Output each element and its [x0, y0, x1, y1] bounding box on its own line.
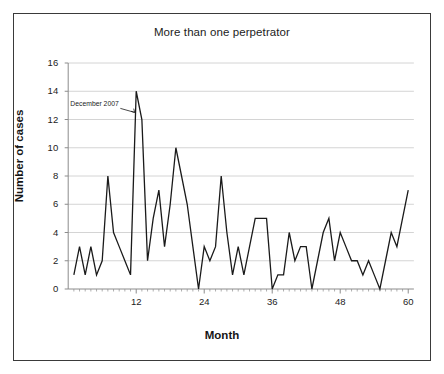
y-axis-tick-label: 14 [36, 85, 58, 96]
y-axis-tick-label: 8 [36, 170, 58, 181]
x-axis-ticks-group [74, 289, 408, 294]
gridlines-group [68, 63, 414, 261]
chart-figure: More than one perpetrator 0246810121416 … [0, 0, 444, 374]
y-axis-tick-label: 16 [36, 57, 58, 68]
x-axis-tick-label: 60 [396, 296, 420, 307]
x-axis-tick-label: 24 [192, 296, 216, 307]
y-axis-tick-label: 4 [36, 227, 58, 238]
x-axis-tick-label: 48 [328, 296, 352, 307]
y-axis-tick-label: 12 [36, 114, 58, 125]
y-axis-tick-label: 2 [36, 255, 58, 266]
data-series-line [74, 91, 408, 289]
x-axis-tick-label: 12 [124, 296, 148, 307]
x-axis-tick-label: 36 [260, 296, 284, 307]
y-axis-tick-label: 6 [36, 198, 58, 209]
annotation-arrow-group [120, 108, 134, 112]
y-axis-ticks-group [65, 63, 69, 289]
annotation-december-2007: December 2007 [70, 100, 118, 107]
y-axis-tick-label: 0 [36, 283, 58, 294]
x-axis-title: Month [0, 329, 444, 341]
y-axis-title: Number of cases [13, 101, 25, 211]
y-axis-tick-label: 10 [36, 142, 58, 153]
annotation-arrow-icon [120, 108, 134, 112]
chart-plot-area [0, 0, 444, 374]
